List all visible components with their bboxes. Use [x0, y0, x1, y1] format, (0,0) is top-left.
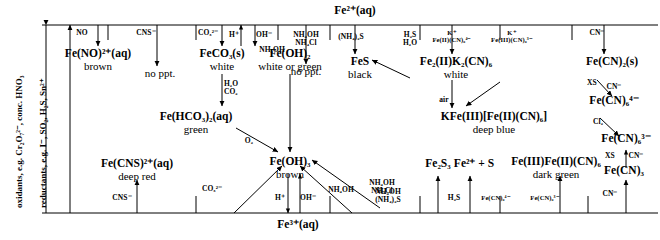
- product-fe-oh-3: Fe(OH)₃: [269, 155, 310, 167]
- reagent-cn-top: CN⁻: [589, 29, 604, 37]
- side-label-reductants: reductants, e.g. I⁻, SO₂, H₂S, Sn²⁺: [38, 78, 48, 208]
- species-fe3-aq: Fe³⁺(aq): [277, 218, 318, 230]
- reagent-nh4oh-ammonium-sulfide: NH₄OH (NH₄)₂S: [375, 188, 401, 204]
- reagent-ferricyanide-bottom: Fe(CN)₆³⁻: [530, 195, 559, 202]
- reagent-cns-bottom: CNS⁻: [112, 194, 131, 202]
- product-fe-oh-3-colour: brown: [276, 169, 304, 181]
- product-ferrocyanide: Fe(CN)₆⁴⁻: [589, 94, 638, 106]
- reagent-ferrocyanide-bottom: Fe(CN)₆⁴⁻: [481, 195, 510, 202]
- product-fe2s3: Fe₂S₃: [425, 157, 450, 169]
- product-prussian-blue-colour: deep blue: [473, 124, 515, 136]
- reagent-xs-2: XS: [605, 152, 615, 160]
- reagent-h2s-bottom: H₂S: [448, 194, 461, 202]
- product-no-ppt-1: no ppt.: [145, 68, 176, 80]
- reagent-o2: O₂: [245, 137, 253, 145]
- product-fes: FeS: [351, 55, 370, 67]
- product-ferricyanide: Fe(CN)₆³⁻: [601, 132, 650, 144]
- product-fes-colour: black: [348, 69, 372, 81]
- reagent-nh4oh-nh4cl-top: NH₄OH NH₄Cl: [293, 31, 319, 47]
- product-turnbulls-blue-colour: dark green: [533, 169, 580, 181]
- product-fe-no: Fe(NO)²⁺(aq): [65, 47, 131, 59]
- product-turnbulls-blue: Fe(III)Fe(II)(CN)₆: [511, 155, 601, 167]
- product-fe-cns-colour: deep red: [118, 171, 156, 183]
- product-fe-cns: Fe(CNS)²⁺(aq): [101, 157, 173, 169]
- reagent-air: air: [439, 96, 448, 104]
- reagent-h-plus-top: H⁺: [229, 31, 239, 39]
- reagent-h2s-h2o-top: H₂S H₂O: [403, 31, 417, 47]
- reagent-ammonium-sulfide-top: (NH₄)₂S: [338, 33, 364, 41]
- product-feco3-colour: white: [210, 61, 234, 73]
- product-prussian-blue: KFe(III)[Fe(II)(CN)₆]: [441, 110, 547, 122]
- product-fe-hco3-colour: green: [184, 124, 208, 136]
- reagent-oh-minus-bottom: OH⁻: [300, 194, 316, 202]
- reagent-carbonate-top: CO₃²⁻: [198, 29, 218, 37]
- reagent-cn-minus-1: CN⁻: [606, 83, 621, 91]
- reagent-h2o-co2: H₂O CO₂: [224, 80, 238, 96]
- reagent-carbonate-bottom: CO₃²⁻: [202, 185, 222, 193]
- side-label-oxidants: oxidants, e.g. Cr₂O₇²⁻, conc. HNO₃: [14, 75, 24, 208]
- product-fe-cn-2: Fe(CN)₂(s): [586, 55, 638, 67]
- reagent-h-plus-bottom: H⁺: [275, 194, 285, 202]
- reagent-k-ferricyanide: K⁺ Fe(III)(CN)₆³⁻: [491, 30, 533, 44]
- product-fe-no-colour: brown: [84, 61, 112, 73]
- reagent-cns-top: CNS⁻: [136, 29, 155, 37]
- product-fe-cn-3: Fe(CN)₃: [604, 164, 644, 176]
- reagent-cn-bottom: CN⁻: [602, 190, 617, 198]
- product-fe2k2cn6-colour: white: [444, 69, 468, 81]
- product-fe2k2cn6: Fe₂(II)K₂(CN)₆: [420, 55, 492, 67]
- product-feco3: FeCO₃(s): [200, 47, 245, 59]
- reagent-k-ferrocyanide: K⁺ Fe(II)(CN)₆⁴⁻: [432, 30, 471, 44]
- reaction-scheme-diagram: oxidants, e.g. Cr₂O₇²⁻, conc. HNO₃ reduc…: [0, 0, 660, 240]
- product-fe-hco3: Fe(HCO₃)₂(aq): [160, 110, 233, 122]
- reagent-oh-minus-top: OH⁻: [256, 31, 272, 39]
- arrow-layer: [0, 0, 660, 240]
- product-fe-oh-2: Fe(OH)₂: [269, 47, 310, 59]
- species-fe2-aq: Fe²⁺(aq): [334, 4, 375, 16]
- product-no-ppt-2: no ppt.: [291, 66, 322, 78]
- reagent-nh4oh-bottom: NH₄OH: [328, 186, 354, 194]
- product-fe2-plus-sulfur: Fe²⁺ + S: [454, 157, 494, 169]
- reagent-no: NO: [76, 29, 87, 37]
- reagent-cn-minus-2: CN⁻: [628, 152, 643, 160]
- reagent-xs-1: XS: [587, 79, 597, 87]
- reagent-cl2: Cl₂: [593, 118, 603, 126]
